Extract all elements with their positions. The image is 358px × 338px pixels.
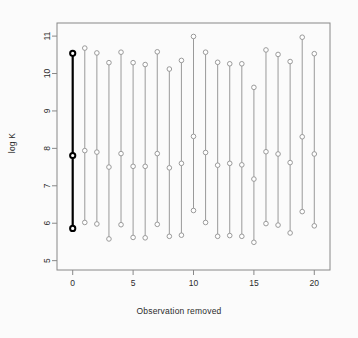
y-axis-tick-label: 10 <box>42 69 52 79</box>
upper-point <box>179 58 184 63</box>
estimate-point <box>240 163 245 168</box>
estimate-point <box>203 150 208 155</box>
estimate-point <box>82 148 87 153</box>
upper-point <box>300 35 305 40</box>
estimate-point <box>215 163 220 168</box>
interval-marker <box>215 60 220 239</box>
lower-point <box>264 221 269 226</box>
interval-marker <box>300 35 305 214</box>
upper-point <box>203 50 208 55</box>
lower-point <box>288 231 293 236</box>
interval-marker <box>264 48 269 226</box>
y-axis-tick-label: 6 <box>42 221 52 226</box>
estimate-point <box>119 151 124 156</box>
estimate-point <box>227 161 232 166</box>
interval-marker <box>107 60 112 241</box>
interval-marker <box>288 59 293 235</box>
upper-point <box>264 48 269 53</box>
lower-point <box>167 234 172 239</box>
estimate-point <box>95 150 100 155</box>
lower-point <box>252 240 257 245</box>
upper-point <box>95 51 100 56</box>
estimate-point <box>300 134 305 139</box>
estimate-point <box>107 165 112 170</box>
upper-point <box>252 85 257 90</box>
upper-point <box>143 62 148 67</box>
upper-point <box>240 61 245 66</box>
lower-point <box>155 222 160 227</box>
upper-point <box>167 67 172 72</box>
lower-point <box>107 237 112 242</box>
estimate-point <box>264 149 269 154</box>
interval-marker <box>191 34 196 213</box>
upper-point <box>155 50 160 55</box>
estimate-point <box>143 164 148 169</box>
interval-marker <box>276 52 281 227</box>
estimate-point <box>70 153 75 158</box>
interval-marker <box>179 58 184 237</box>
lower-point <box>215 234 220 239</box>
scatter-plot-canvas: 56789101105101520 <box>0 0 358 338</box>
lower-point <box>227 233 232 238</box>
x-axis-tick-label: 20 <box>310 278 320 288</box>
lower-point <box>143 236 148 241</box>
y-axis-tick-label: 5 <box>42 258 52 263</box>
interval-marker <box>143 62 148 240</box>
upper-point <box>312 51 317 56</box>
estimate-point <box>191 134 196 139</box>
x-axis-tick-label: 10 <box>189 278 199 288</box>
upper-point <box>107 60 112 65</box>
upper-point <box>227 61 232 66</box>
interval-marker <box>203 50 208 225</box>
upper-point <box>288 59 293 64</box>
interval-marker <box>82 46 87 225</box>
interval-marker <box>131 60 136 239</box>
y-axis-tick-label: 11 <box>42 31 52 40</box>
y-axis-title: log K <box>7 113 17 173</box>
x-axis-tick-label: 0 <box>70 278 75 288</box>
interval-marker <box>240 61 245 238</box>
lower-point <box>70 226 75 231</box>
estimate-point <box>288 160 293 165</box>
x-axis-tick-label: 5 <box>131 278 136 288</box>
estimate-point <box>155 151 160 156</box>
upper-point <box>119 50 124 55</box>
lower-point <box>95 222 100 227</box>
lower-point <box>203 220 208 225</box>
lower-point <box>119 222 124 227</box>
upper-point <box>131 60 136 65</box>
lower-point <box>191 208 196 213</box>
estimate-point <box>131 164 136 169</box>
interval-marker <box>155 50 160 227</box>
interval-marker <box>95 51 100 227</box>
y-axis-tick-label: 7 <box>42 183 52 188</box>
lower-point <box>300 209 305 214</box>
lower-point <box>240 234 245 239</box>
estimate-point <box>252 177 257 182</box>
interval-marker <box>227 61 232 237</box>
upper-point <box>276 52 281 57</box>
x-axis-title: Observation removed <box>0 306 358 316</box>
interval-marker <box>167 67 172 239</box>
upper-point <box>82 46 87 51</box>
interval-marker <box>312 51 317 228</box>
estimate-point <box>276 152 281 157</box>
estimate-point <box>179 161 184 166</box>
y-axis-tick-label: 8 <box>42 146 52 151</box>
upper-point <box>70 51 75 56</box>
lower-point <box>179 233 184 238</box>
estimate-point <box>312 152 317 157</box>
estimate-point <box>167 166 172 171</box>
interval-marker <box>119 50 124 227</box>
interval-marker <box>252 85 257 245</box>
x-axis-tick-label: 15 <box>249 278 259 288</box>
upper-point <box>191 34 196 39</box>
y-axis-tick-label: 9 <box>42 108 52 113</box>
chart-figure: 56789101105101520 Observation removed lo… <box>0 0 358 338</box>
lower-point <box>312 224 317 229</box>
upper-point <box>215 60 220 65</box>
lower-point <box>82 220 87 225</box>
lower-point <box>131 235 136 240</box>
interval-highlight <box>70 51 75 231</box>
lower-point <box>276 223 281 228</box>
